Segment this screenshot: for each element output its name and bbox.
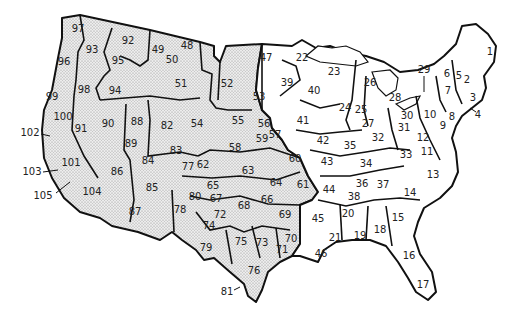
region-label-44: 44 <box>323 184 336 195</box>
region-label-32: 32 <box>372 132 385 143</box>
region-label-23: 23 <box>328 66 341 77</box>
region-label-73: 73 <box>256 237 269 248</box>
region-label-27: 27 <box>362 118 375 129</box>
region-label-36: 36 <box>356 178 369 189</box>
region-label-26: 26 <box>364 77 377 88</box>
region-label-30: 30 <box>401 110 414 121</box>
region-label-46: 46 <box>315 248 328 259</box>
region-label-45: 45 <box>312 213 325 224</box>
region-label-29: 29 <box>418 64 431 75</box>
region-label-40: 40 <box>308 85 321 96</box>
region-label-3: 3 <box>470 92 476 103</box>
region-label-43: 43 <box>321 156 334 167</box>
region-label-70: 70 <box>285 233 298 244</box>
region-label-6: 6 <box>444 68 450 79</box>
region-label-38: 38 <box>348 191 361 202</box>
region-label-10: 10 <box>424 109 437 120</box>
region-label-102: 102 <box>20 127 39 138</box>
region-label-13: 13 <box>427 169 440 180</box>
region-label-7: 7 <box>445 85 451 96</box>
region-label-41: 41 <box>297 115 310 126</box>
region-label-96: 96 <box>58 56 71 67</box>
region-label-54: 54 <box>191 118 204 129</box>
region-label-100: 100 <box>53 111 72 122</box>
region-label-12: 12 <box>417 132 430 143</box>
region-label-67: 67 <box>210 193 223 204</box>
region-label-93: 93 <box>86 44 99 55</box>
region-label-4: 4 <box>475 109 481 120</box>
region-label-53: 53 <box>253 91 266 102</box>
region-label-34: 34 <box>360 158 373 169</box>
region-label-62: 62 <box>197 159 210 170</box>
region-label-55: 55 <box>232 115 245 126</box>
region-label-86: 86 <box>111 166 124 177</box>
region-label-57: 57 <box>269 129 282 140</box>
region-label-83: 83 <box>170 145 183 156</box>
region-label-64: 64 <box>270 177 283 188</box>
region-label-65: 65 <box>207 180 220 191</box>
region-label-76: 76 <box>248 265 261 276</box>
region-label-51: 51 <box>175 78 188 89</box>
region-label-18: 18 <box>374 224 387 235</box>
region-label-42: 42 <box>317 135 330 146</box>
region-label-88: 88 <box>131 116 144 127</box>
region-label-75: 75 <box>235 236 248 247</box>
region-label-35: 35 <box>344 140 357 151</box>
us-region-map: 1234567891011121314151617181920212223242… <box>0 0 515 321</box>
region-label-22: 22 <box>296 52 309 63</box>
region-label-50: 50 <box>166 54 179 65</box>
region-label-72: 72 <box>214 209 227 220</box>
region-label-98: 98 <box>78 84 91 95</box>
region-label-69: 69 <box>279 209 292 220</box>
region-label-99: 99 <box>46 91 59 102</box>
region-label-95: 95 <box>112 55 125 66</box>
region-label-33: 33 <box>400 149 413 160</box>
region-label-2: 2 <box>464 74 470 85</box>
region-label-25: 25 <box>355 104 368 115</box>
region-label-74: 74 <box>203 220 216 231</box>
region-label-14: 14 <box>404 187 417 198</box>
region-label-101: 101 <box>61 157 80 168</box>
region-label-68: 68 <box>238 200 251 211</box>
region-label-17: 17 <box>417 279 430 290</box>
region-label-81: 81 <box>221 286 234 297</box>
region-label-16: 16 <box>403 250 416 261</box>
region-label-20: 20 <box>342 208 355 219</box>
region-label-66: 66 <box>261 194 274 205</box>
region-label-79: 79 <box>200 242 213 253</box>
region-label-71: 71 <box>276 244 289 255</box>
region-label-104: 104 <box>82 186 101 197</box>
region-label-1: 1 <box>487 46 493 57</box>
region-label-52: 52 <box>221 78 234 89</box>
region-label-82: 82 <box>161 120 174 131</box>
region-label-60: 60 <box>289 153 302 164</box>
region-label-78: 78 <box>174 204 187 215</box>
region-label-39: 39 <box>281 77 294 88</box>
region-label-87: 87 <box>129 206 142 217</box>
region-label-11: 11 <box>421 146 434 157</box>
region-label-24: 24 <box>339 102 352 113</box>
region-label-47: 47 <box>260 52 273 63</box>
region-label-85: 85 <box>146 182 159 193</box>
region-label-92: 92 <box>122 35 135 46</box>
region-label-28: 28 <box>389 92 402 103</box>
region-label-58: 58 <box>229 142 242 153</box>
region-label-97: 97 <box>72 23 85 34</box>
region-label-84: 84 <box>142 155 155 166</box>
region-label-21: 21 <box>329 232 342 243</box>
region-label-103: 103 <box>22 166 41 177</box>
region-label-9: 9 <box>440 120 446 131</box>
region-label-31: 31 <box>398 122 411 133</box>
region-label-59: 59 <box>256 133 269 144</box>
region-label-56: 56 <box>258 118 271 129</box>
region-label-19: 19 <box>354 230 367 241</box>
region-label-15: 15 <box>392 212 405 223</box>
region-label-89: 89 <box>125 138 138 149</box>
region-label-37: 37 <box>377 179 390 190</box>
region-label-8: 8 <box>449 111 455 122</box>
region-label-63: 63 <box>242 165 255 176</box>
region-label-49: 49 <box>152 44 165 55</box>
region-label-90: 90 <box>102 118 115 129</box>
region-label-5: 5 <box>456 70 462 81</box>
region-label-91: 91 <box>75 123 88 134</box>
